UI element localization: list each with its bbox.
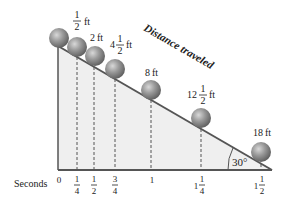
tick-3-4: 3 4 — [112, 174, 118, 196]
tick-1: 1 — [150, 175, 155, 185]
svg-text:2: 2 — [260, 186, 265, 196]
svg-text:ft: ft — [84, 16, 90, 27]
svg-text:1: 1 — [201, 83, 206, 94]
angle-label: 30° — [232, 156, 247, 168]
svg-text:12: 12 — [187, 89, 197, 100]
svg-text:4: 4 — [110, 39, 115, 50]
svg-text:3: 3 — [113, 174, 118, 184]
svg-text:8: 8 — [145, 67, 150, 78]
svg-text:ft: ft — [97, 32, 103, 43]
time-tick-labels: 0 1 4 1 2 3 4 1 1 1 4 1 1 2 — [57, 174, 265, 196]
svg-text:2: 2 — [92, 186, 97, 196]
ball-6 — [251, 142, 271, 162]
svg-text:2: 2 — [201, 95, 206, 106]
svg-text:1: 1 — [194, 181, 199, 191]
svg-text:2: 2 — [118, 45, 123, 56]
svg-text:2: 2 — [90, 32, 95, 43]
distance-label-4: 12 1 2 ft — [187, 83, 215, 106]
svg-text:1: 1 — [254, 181, 259, 191]
ball-0 — [49, 28, 69, 48]
distance-label-0: 1 2 ft — [73, 9, 90, 32]
tick-1-2: 1 2 — [91, 174, 97, 196]
svg-text:1: 1 — [92, 174, 97, 184]
distance-label-2: 4 1 2 ft — [110, 33, 132, 56]
svg-text:2: 2 — [75, 21, 80, 32]
ball-1 — [67, 37, 87, 57]
svg-text:4: 4 — [200, 186, 205, 196]
tick-1-1-4: 1 1 4 — [194, 174, 205, 196]
distance-traveled-title: Distance traveled — [141, 21, 216, 71]
svg-text:ft: ft — [265, 127, 271, 138]
svg-text:1: 1 — [118, 33, 123, 44]
rolling-ball-diagram: 30° 1 2 ft 2 ft 4 1 2 ft — [0, 0, 286, 208]
svg-text:1: 1 — [200, 174, 205, 184]
seconds-axis-label: Seconds — [14, 178, 47, 189]
distance-label-3: 8 ft — [145, 67, 158, 78]
svg-text:0: 0 — [57, 175, 62, 185]
ball-5 — [191, 108, 211, 128]
distance-label-1: 2 ft — [90, 32, 103, 43]
svg-text:1: 1 — [260, 174, 265, 184]
tick-1-4: 1 4 — [74, 174, 80, 196]
svg-text:ft: ft — [126, 39, 132, 50]
svg-text:1: 1 — [150, 175, 155, 185]
tick-1-1-2: 1 1 2 — [254, 174, 265, 196]
ball-3 — [105, 59, 125, 79]
svg-text:4: 4 — [75, 186, 80, 196]
ball-2 — [85, 46, 105, 66]
distance-label-5: 18 ft — [253, 127, 271, 138]
svg-text:1: 1 — [75, 174, 80, 184]
svg-text:ft: ft — [209, 89, 215, 100]
svg-text:1: 1 — [75, 9, 80, 20]
svg-text:4: 4 — [113, 186, 118, 196]
svg-text:18: 18 — [253, 127, 263, 138]
ball-4 — [141, 80, 161, 100]
svg-text:ft: ft — [152, 67, 158, 78]
